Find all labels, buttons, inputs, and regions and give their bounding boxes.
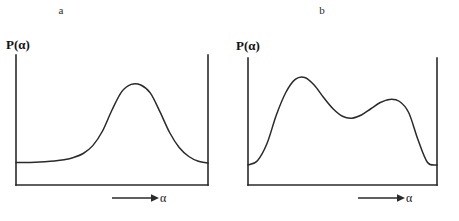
panel-b-distribution-curve <box>248 77 437 165</box>
panel-a: a P(α) α <box>0 0 230 221</box>
figure-root: a P(α) α b P(α) <box>0 0 459 221</box>
panel-b: b P(α) α <box>229 0 459 221</box>
panel-b-plot <box>229 0 459 221</box>
caption-fragment <box>0 215 459 221</box>
panel-a-x-arrow <box>112 194 159 202</box>
panel-a-x-axis-label: α <box>160 191 166 206</box>
panel-a-plot <box>0 0 230 221</box>
right-arrow-head-icon <box>151 194 159 202</box>
panel-b-x-arrow <box>358 194 405 202</box>
right-arrow-head-icon <box>397 194 405 202</box>
panel-b-x-axis-label: α <box>406 191 412 206</box>
panel-a-distribution-curve <box>16 84 208 163</box>
